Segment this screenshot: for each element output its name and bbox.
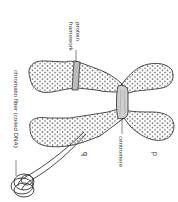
protein-framework-label-1: protein — [75, 22, 82, 41]
chromatid-q-lower — [30, 108, 124, 147]
chromatin-fiber-label: chromatin fiber (coiled DNA) — [13, 70, 20, 148]
protein-framework-label-2: framework — [68, 22, 75, 52]
centromere-label: centromere — [118, 136, 125, 168]
chromatid-p-upper — [122, 63, 173, 94]
chromosome-diagram: protein framework chromatin fiber (coile… — [0, 0, 178, 202]
chromatid-p-lower — [124, 110, 174, 140]
centromere-region — [117, 85, 129, 119]
p-arm-label: p — [151, 152, 159, 156]
q-arm-label: q — [81, 152, 89, 156]
